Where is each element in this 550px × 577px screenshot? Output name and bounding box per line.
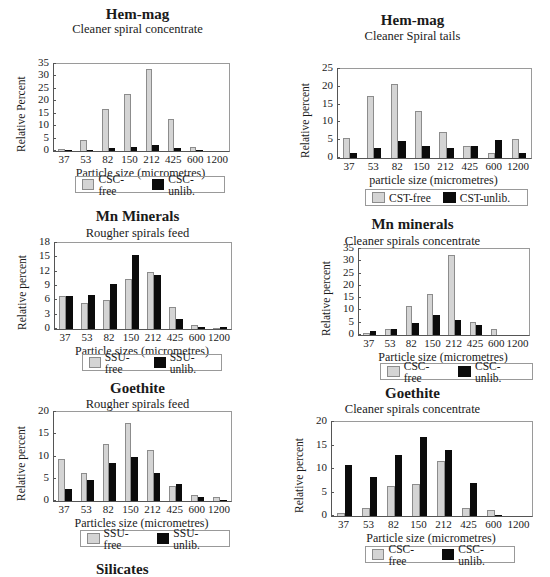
bar-unlib-150 bbox=[420, 437, 428, 516]
bar-free-82 bbox=[102, 109, 109, 151]
x-tick-label: 1200 bbox=[206, 331, 232, 343]
chart-legend: CSC-freeCSC-unlib. bbox=[380, 363, 533, 380]
y-tick-label: 10 bbox=[336, 302, 354, 314]
chart-title: Goethite bbox=[0, 380, 275, 397]
y-axis-label: Relative percent bbox=[16, 255, 28, 330]
bar-unlib-150 bbox=[422, 146, 429, 158]
y-tick-label: 20 bbox=[309, 414, 327, 426]
y-tick-mark bbox=[358, 297, 361, 298]
legend-item: CSC-unlib. bbox=[458, 360, 526, 384]
bar-unlib-53 bbox=[87, 480, 94, 501]
unlib-swatch-icon bbox=[442, 549, 454, 560]
bar-free-53 bbox=[362, 508, 370, 516]
bar-unlib-600 bbox=[495, 515, 503, 516]
legend-label: SSU-free bbox=[104, 527, 145, 551]
bar-unlib-37 bbox=[370, 331, 376, 335]
y-tick-mark bbox=[53, 75, 56, 76]
bar-unlib-1200 bbox=[519, 153, 526, 158]
y-tick-label: 15 bbox=[31, 106, 49, 118]
bar-free-150 bbox=[415, 111, 422, 158]
chart-subtitle: Cleaner spirals concentrate bbox=[275, 234, 550, 249]
y-tick-label: 20 bbox=[31, 93, 49, 105]
legend-item: CST-unlib. bbox=[443, 192, 510, 204]
bar-unlib-150 bbox=[132, 255, 139, 329]
y-tick-mark bbox=[331, 492, 334, 493]
y-tick-mark bbox=[53, 433, 56, 434]
x-tick-label: 53 bbox=[356, 518, 382, 530]
y-tick-label: 0 bbox=[31, 143, 49, 155]
chart-subtitle: Cleaner spiral concentrate bbox=[0, 22, 275, 37]
y-tick-label: 0 bbox=[315, 150, 333, 162]
bar-unlib-212 bbox=[445, 450, 453, 516]
y-tick-mark bbox=[53, 100, 56, 101]
legend-label: CSC-unlib. bbox=[458, 543, 508, 567]
bar-unlib-212 bbox=[154, 275, 161, 329]
y-tick-mark bbox=[54, 299, 57, 300]
bar-free-600 bbox=[487, 510, 495, 516]
y-tick-mark bbox=[337, 157, 340, 158]
legend-item: SSU-free bbox=[87, 527, 145, 551]
y-tick-label: 12 bbox=[32, 264, 50, 276]
y-tick-label: 25 bbox=[315, 61, 333, 73]
bar-free-212 bbox=[146, 69, 153, 151]
y-tick-label: 5 bbox=[31, 131, 49, 143]
bar-free-53 bbox=[81, 473, 88, 501]
free-swatch-icon bbox=[372, 549, 384, 560]
bar-unlib-600 bbox=[198, 327, 205, 329]
bar-unlib-150 bbox=[433, 315, 439, 335]
y-axis-label: Relative Percent bbox=[15, 76, 27, 152]
chart-title: Mn Minerals bbox=[0, 208, 275, 225]
y-tick-label: 20 bbox=[315, 79, 333, 91]
silicates-title-partial: Silicates bbox=[96, 561, 149, 577]
chart-legend: CST-freeCST-unlib. bbox=[365, 189, 528, 206]
legend-label: SSU-free bbox=[105, 351, 143, 375]
x-tick-label: 600 bbox=[481, 160, 507, 172]
y-tick-label: 5 bbox=[31, 471, 49, 483]
unlib-swatch-icon bbox=[157, 533, 170, 544]
x-tick-label: 1200 bbox=[504, 337, 530, 349]
y-tick-mark bbox=[53, 88, 56, 89]
y-tick-mark bbox=[331, 445, 334, 446]
bar-unlib-37 bbox=[350, 153, 357, 158]
y-tick-mark bbox=[331, 468, 334, 469]
legend-label: CSC-free bbox=[404, 360, 446, 384]
bar-unlib-150 bbox=[131, 457, 138, 501]
free-swatch-icon bbox=[82, 179, 94, 190]
bar-unlib-425 bbox=[174, 148, 181, 151]
y-tick-label: 15 bbox=[31, 426, 49, 438]
legend-label: CSC-free bbox=[388, 543, 429, 567]
plot-area bbox=[53, 63, 230, 152]
y-tick-label: 18 bbox=[32, 235, 50, 247]
bar-free-82 bbox=[387, 486, 395, 516]
y-tick-mark bbox=[331, 515, 334, 516]
bar-unlib-212 bbox=[152, 145, 159, 151]
bar-free-600 bbox=[191, 495, 198, 501]
y-tick-label: 20 bbox=[31, 404, 49, 416]
bar-free-37 bbox=[343, 138, 350, 158]
bar-unlib-53 bbox=[391, 329, 397, 335]
y-tick-label: 0 bbox=[336, 327, 354, 339]
y-tick-mark bbox=[358, 273, 361, 274]
bar-free-150 bbox=[125, 279, 132, 329]
plot-area bbox=[53, 411, 232, 502]
y-tick-label: 5 bbox=[336, 315, 354, 327]
bar-unlib-600 bbox=[196, 150, 203, 151]
bar-free-600 bbox=[491, 329, 497, 335]
bar-unlib-82 bbox=[412, 323, 418, 335]
y-axis-label: Relative percent bbox=[299, 82, 311, 157]
bar-free-82 bbox=[103, 300, 110, 329]
y-tick-mark bbox=[54, 242, 57, 243]
y-tick-mark bbox=[53, 125, 56, 126]
x-tick-label: 37 bbox=[331, 518, 357, 530]
bar-free-82 bbox=[103, 444, 110, 501]
y-tick-mark bbox=[337, 86, 340, 87]
bar-unlib-1200 bbox=[220, 327, 227, 329]
bar-free-53 bbox=[81, 303, 88, 329]
y-tick-label: 20 bbox=[336, 278, 354, 290]
y-tick-label: 25 bbox=[336, 266, 354, 278]
y-tick-label: 30 bbox=[336, 253, 354, 265]
y-tick-mark bbox=[337, 68, 340, 69]
y-tick-label: 35 bbox=[31, 56, 49, 68]
unlib-swatch-icon bbox=[154, 357, 165, 368]
y-tick-mark bbox=[53, 63, 56, 64]
